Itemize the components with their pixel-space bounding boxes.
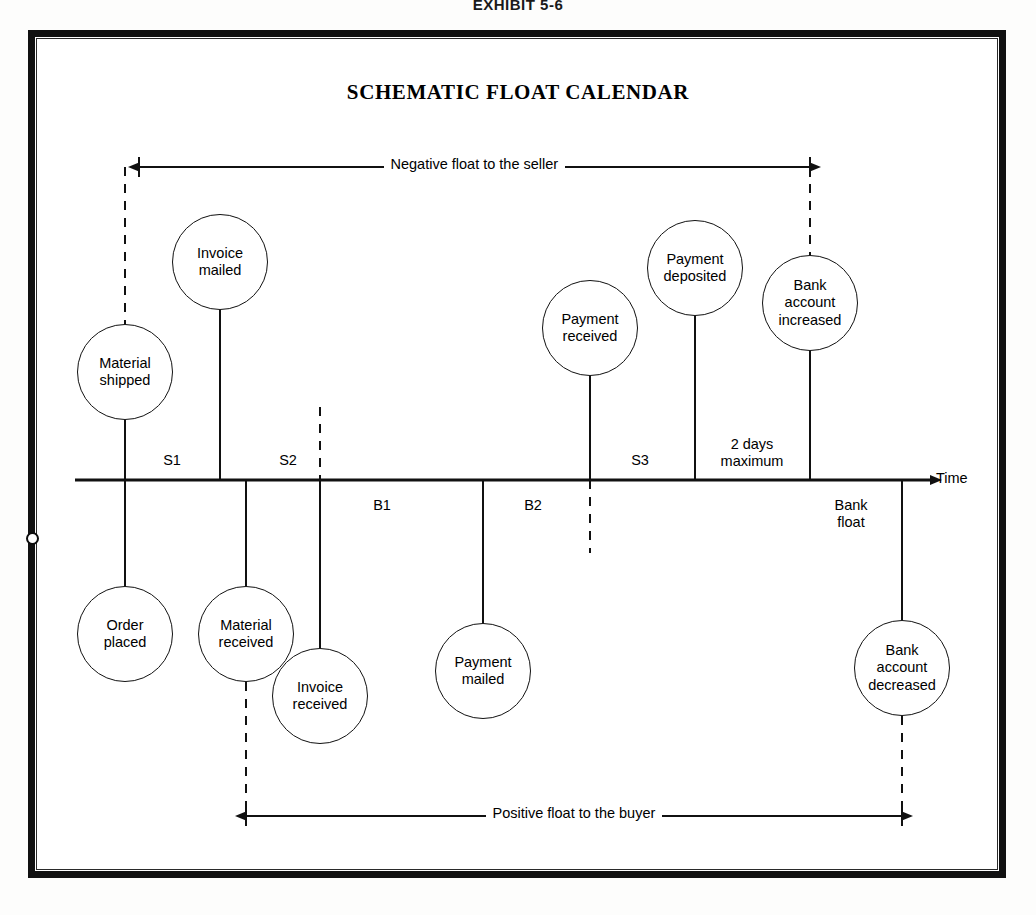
event-node-label: Bank account increased (779, 277, 842, 328)
float-band-label-negative-float: Negative float to the seller (384, 156, 566, 172)
event-node-payment-received[interactable]: Payment received (542, 280, 638, 376)
segment-label-s2: S2 (228, 452, 348, 469)
float-band-label-positive-float: Positive float to the buyer (486, 805, 663, 821)
event-node-label: Material received (219, 617, 274, 651)
event-node-label: Invoice received (293, 679, 348, 713)
segment-label-s1: S1 (112, 452, 232, 469)
event-node-label: Payment received (561, 311, 618, 345)
segment-label-b1: B1 (322, 497, 442, 514)
segment-label-bank-float: Bank float (791, 497, 911, 531)
event-node-bank-account-decreased[interactable]: Bank account decreased (854, 620, 950, 716)
axis-time-label: Time (936, 470, 968, 486)
event-node-payment-deposited[interactable]: Payment deposited (647, 220, 743, 316)
event-node-material-shipped[interactable]: Material shipped (77, 324, 173, 420)
segment-label-b2: B2 (473, 497, 593, 514)
event-node-invoice-received[interactable]: Invoice received (272, 648, 368, 744)
event-node-label: Bank account decreased (868, 642, 936, 693)
event-node-payment-mailed[interactable]: Payment mailed (435, 623, 531, 719)
event-node-label: Material shipped (99, 355, 151, 389)
event-node-label: Payment deposited (664, 251, 727, 285)
event-node-order-placed[interactable]: Order placed (77, 586, 173, 682)
event-node-label: Order placed (104, 617, 147, 651)
segment-label-s3: S3 (580, 452, 700, 469)
event-node-label: Payment mailed (454, 654, 511, 688)
segment-label-two-days: 2 days maximum (692, 436, 812, 470)
event-node-label: Invoice mailed (197, 245, 243, 279)
event-node-bank-account-increased[interactable]: Bank account increased (762, 255, 858, 351)
event-node-invoice-mailed[interactable]: Invoice mailed (172, 214, 268, 310)
